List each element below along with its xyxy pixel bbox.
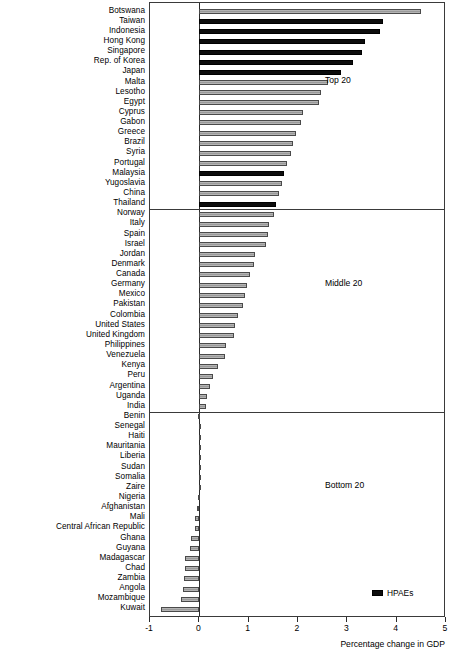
category-label: Haiti — [128, 431, 145, 440]
bar — [199, 323, 235, 328]
category-label: Liberia — [120, 451, 145, 460]
category-label: Yugoslavia — [105, 178, 145, 187]
x-tick-label: 1 — [245, 623, 250, 633]
bar — [199, 39, 364, 44]
x-tick-label: 0 — [196, 623, 201, 633]
bar — [199, 485, 201, 490]
x-tick — [297, 617, 298, 622]
section-title: Top 20 — [325, 75, 351, 85]
category-label: Chad — [125, 563, 145, 572]
category-label: Norway — [117, 208, 145, 217]
category-label: Zaire — [126, 482, 145, 491]
bar — [199, 272, 250, 277]
category-label: Jordan — [120, 249, 145, 258]
bar — [199, 60, 353, 65]
bar — [199, 242, 266, 247]
bar — [199, 120, 301, 125]
bar — [199, 70, 341, 75]
category-axis-labels: BotswanaTaiwanIndonesiaHong KongSingapor… — [0, 0, 149, 617]
bar — [199, 80, 327, 85]
category-label: Venezuela — [106, 350, 145, 359]
category-label: Mauritania — [106, 441, 145, 450]
category-label: Brazil — [124, 137, 145, 146]
category-label: Indonesia — [109, 26, 145, 35]
chart-root: BotswanaTaiwanIndonesiaHong KongSingapor… — [0, 0, 451, 660]
bar — [199, 100, 318, 105]
x-axis-title: Percentage change in GDP — [340, 639, 445, 649]
bar — [199, 50, 362, 55]
bar — [195, 516, 199, 521]
x-tick — [198, 617, 199, 622]
category-label: Greece — [118, 127, 145, 136]
category-label: Mali — [130, 512, 145, 521]
bar — [199, 161, 287, 166]
category-label: Sudan — [121, 462, 145, 471]
x-tick — [396, 617, 397, 622]
bar — [199, 29, 380, 34]
bar — [199, 252, 255, 257]
category-label: Italy — [130, 218, 145, 227]
bar — [199, 191, 279, 196]
category-label: Central African Republic — [56, 522, 145, 531]
legend-swatch-hpaes — [372, 590, 383, 596]
category-label: Colombia — [110, 310, 145, 319]
bar — [197, 506, 199, 511]
legend-label-hpaes: HPAEs — [387, 588, 413, 598]
bar — [199, 232, 268, 237]
bar — [199, 374, 212, 379]
bar — [199, 171, 284, 176]
bar — [199, 343, 226, 348]
category-label: Gabon — [120, 117, 145, 126]
category-label: Senegal — [115, 421, 145, 430]
bar — [199, 465, 201, 470]
bar — [190, 546, 199, 551]
category-label: Germany — [111, 279, 145, 288]
category-label: Malaysia — [112, 168, 145, 177]
bar — [199, 202, 275, 207]
bar — [195, 526, 199, 531]
x-tick — [346, 617, 347, 622]
category-label: Taiwan — [119, 16, 145, 25]
category-label: Mexico — [119, 289, 145, 298]
bar — [199, 131, 295, 136]
category-label: Kenya — [122, 360, 145, 369]
section-divider — [150, 412, 444, 413]
category-label: Argentina — [110, 381, 146, 390]
bar — [198, 495, 200, 500]
x-tick — [149, 617, 150, 622]
category-label: Singapore — [107, 46, 145, 55]
bar — [199, 424, 201, 429]
category-label: United States — [95, 320, 145, 329]
category-label: Afghanistan — [101, 502, 145, 511]
category-label: Zambia — [117, 573, 145, 582]
bar — [198, 414, 200, 419]
category-label: Lesotho — [116, 87, 146, 96]
category-label: Ghana — [120, 533, 145, 542]
bar — [199, 9, 421, 14]
category-label: Nigeria — [119, 492, 145, 501]
category-label: Benin — [124, 411, 145, 420]
category-label: Botswana — [109, 6, 145, 15]
section-title: Middle 20 — [325, 278, 362, 288]
x-tick-label: 2 — [295, 623, 300, 633]
bar — [199, 445, 201, 450]
bar — [199, 404, 205, 409]
bar — [184, 576, 200, 581]
category-label: Denmark — [111, 259, 145, 268]
bar — [199, 110, 303, 115]
bar — [199, 181, 282, 186]
category-label: Spain — [124, 229, 145, 238]
bar — [199, 293, 244, 298]
category-label: Philippines — [105, 340, 145, 349]
bar — [199, 354, 225, 359]
category-label: Egypt — [124, 97, 145, 106]
category-label: Rep. of Korea — [94, 56, 145, 65]
bar — [199, 262, 253, 267]
section-divider — [150, 209, 444, 210]
bar — [199, 19, 383, 24]
bar — [185, 566, 200, 571]
bar — [199, 141, 293, 146]
category-label: Madagascar — [99, 553, 145, 562]
x-tick-label: 3 — [344, 623, 349, 633]
bar — [185, 556, 200, 561]
